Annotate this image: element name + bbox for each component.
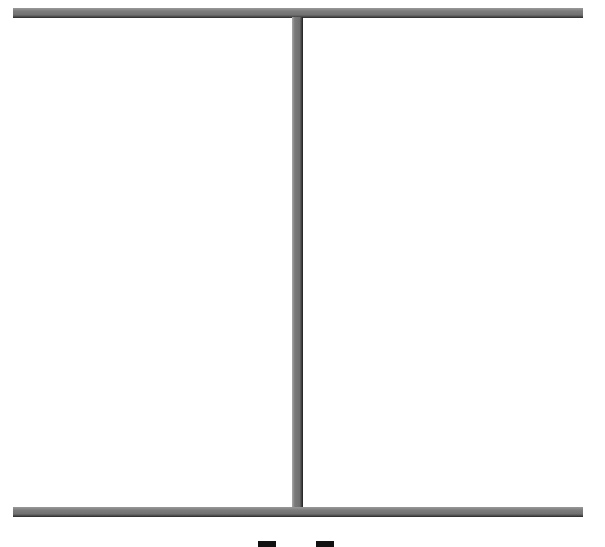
right-piece[interactable] bbox=[316, 541, 334, 547]
center-wall bbox=[292, 17, 303, 508]
bottom-wall bbox=[13, 507, 583, 517]
left-piece[interactable] bbox=[258, 541, 276, 547]
